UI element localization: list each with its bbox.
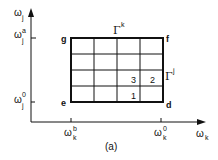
- svg-text:ω: ω: [14, 7, 22, 18]
- boundary-label-gamma-k: Γ k: [113, 21, 125, 37]
- svg-text:k: k: [121, 21, 125, 28]
- corner-label-g: g: [61, 34, 67, 44]
- x-axis-arrow-icon: [197, 119, 206, 125]
- svg-text:ω: ω: [14, 94, 22, 105]
- corner-label-e: e: [61, 98, 66, 108]
- cell-label-2: 2: [150, 75, 155, 85]
- svg-text:Γ: Γ: [113, 24, 121, 37]
- svg-text:j: j: [172, 67, 175, 75]
- svg-text:Γ: Γ: [165, 70, 173, 83]
- svg-text:0: 0: [22, 91, 26, 98]
- svg-text:ω: ω: [196, 128, 204, 139]
- svg-text:j: j: [21, 102, 24, 110]
- svg-text:ω: ω: [154, 127, 162, 138]
- svg-text:ω: ω: [64, 127, 72, 138]
- mesh-grid: [71, 38, 163, 102]
- cell-label-1: 1: [131, 91, 136, 101]
- figure-caption: (a): [105, 141, 117, 152]
- svg-text:k: k: [163, 134, 167, 141]
- svg-text:j: j: [21, 14, 24, 22]
- svg-text:a: a: [22, 27, 26, 34]
- y-axis-label: ω j: [14, 7, 24, 22]
- diagram-canvas: 3 2 1 g f e d Γ k Γ j ω j ω a j ω 0 j ω …: [0, 0, 218, 160]
- corner-label-d: d: [166, 100, 172, 110]
- y-axis-arrow-icon: [28, 8, 34, 17]
- corner-label-f: f: [166, 34, 170, 44]
- svg-text:b: b: [73, 125, 77, 132]
- x-axis-label: ω k: [196, 128, 209, 141]
- x-tick-label-0: ω 0 k: [154, 125, 167, 141]
- y-tick-label-a: ω a j: [14, 27, 26, 45]
- svg-text:0: 0: [163, 125, 167, 132]
- svg-text:k: k: [73, 134, 77, 141]
- svg-text:k: k: [205, 134, 209, 141]
- y-tick-label-0: ω 0 j: [14, 91, 26, 110]
- svg-text:ω: ω: [14, 29, 22, 40]
- x-tick-label-b: ω b k: [64, 125, 77, 141]
- cell-label-3: 3: [131, 75, 136, 85]
- svg-text:j: j: [21, 37, 24, 45]
- boundary-label-gamma-j: Γ j: [165, 67, 175, 83]
